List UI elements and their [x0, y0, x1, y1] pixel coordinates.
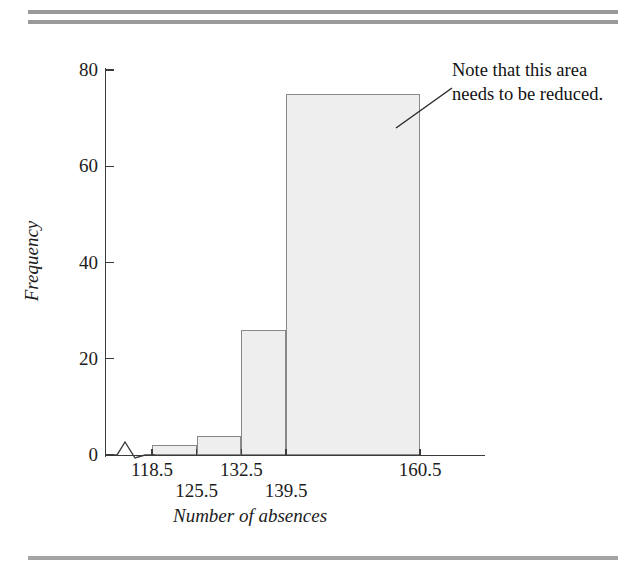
x-tick-118.5 [151, 449, 152, 456]
y-tick-label-text: 80 [58, 60, 98, 79]
y-tick-label-80: 80 [52, 60, 98, 80]
chart-annotation: Note that this area needs to be reduced. [452, 59, 637, 106]
y-tick-label-20: 20 [52, 349, 98, 369]
x-tick-label-125.5: 125.5 [169, 481, 225, 500]
axis-break-symbol [105, 437, 155, 461]
y-axis-title: Frequency [21, 201, 43, 321]
x-tick-label-118.5: 118.5 [124, 460, 180, 479]
x-tick-label-139.5: 139.5 [258, 481, 314, 500]
y-tick-label-60: 60 [52, 156, 98, 176]
figure-page: 020406080 118.5132.5160.5125.5139.5 Numb… [0, 0, 640, 567]
y-tick-label-text: 60 [58, 156, 98, 175]
x-tick-125.5 [196, 449, 197, 456]
x-tick-label-132.5: 132.5 [213, 460, 269, 479]
x-axis-title: Number of absences [0, 505, 500, 527]
y-tick-label-text: 20 [58, 349, 98, 368]
y-tick-80 [105, 69, 114, 70]
x-tick-132.5 [241, 449, 242, 456]
x-tick-160.5 [419, 449, 420, 456]
histogram-plot: 020406080 118.5132.5160.5125.5139.5 Numb… [0, 0, 640, 567]
histogram-bar [286, 94, 420, 455]
x-axis-line [105, 455, 485, 456]
annotation-line-2: needs to be reduced. [452, 83, 637, 107]
y-tick-label-0: 0 [52, 445, 98, 465]
y-tick-60 [105, 166, 114, 167]
histogram-bar [197, 436, 242, 455]
y-tick-label-text: 0 [58, 445, 98, 464]
annotation-line-1: Note that this area [452, 59, 637, 83]
x-tick-139.5 [285, 449, 286, 456]
x-tick-label-160.5: 160.5 [392, 460, 448, 479]
y-tick-label-40: 40 [52, 253, 98, 273]
y-tick-label-text: 40 [58, 253, 98, 272]
histogram-bar [241, 330, 286, 455]
y-tick-40 [105, 262, 114, 263]
annotation-leader-line [392, 84, 456, 132]
y-tick-20 [105, 358, 114, 359]
histogram-bar [152, 445, 197, 455]
